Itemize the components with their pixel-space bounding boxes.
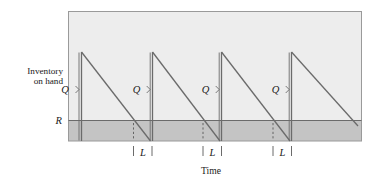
lead-time-label-3: L: [279, 147, 286, 158]
lead-time-label-2: L: [209, 147, 216, 158]
lead-time-label-1: L: [139, 147, 146, 158]
inventory-sawtooth-figure: Q Q Q Q L L L Inventory on hand R Time: [0, 0, 379, 182]
figure-canvas: Q Q Q Q L L L Inventory on hand R Time: [0, 0, 379, 182]
q-label-2: Q: [133, 84, 141, 95]
x-axis-label: Time: [201, 165, 221, 176]
reorder-point-label: R: [55, 115, 63, 126]
q-label-4: Q: [272, 84, 280, 95]
y-axis-label-line2: on hand: [34, 76, 64, 86]
q-label-3: Q: [202, 84, 210, 95]
safety-stock-band: [69, 121, 362, 142]
y-axis-label-line1: Inventory: [27, 66, 63, 76]
